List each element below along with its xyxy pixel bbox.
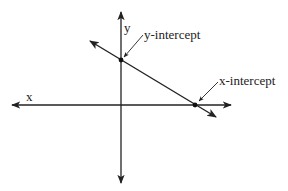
y-axis-label: y [124, 20, 131, 35]
x-intercept-point [193, 103, 198, 108]
y-intercept-point [119, 58, 124, 63]
x-intercept-pointer-arrow [199, 82, 218, 101]
y-intercept-pointer-arrow [124, 35, 143, 57]
x-intercept-label: x-intercept [219, 73, 276, 88]
y-intercept-label: y-intercept [144, 27, 201, 42]
x-axis-label: x [26, 89, 33, 104]
coordinate-diagram: x y y-intercept x-intercept [0, 0, 288, 191]
